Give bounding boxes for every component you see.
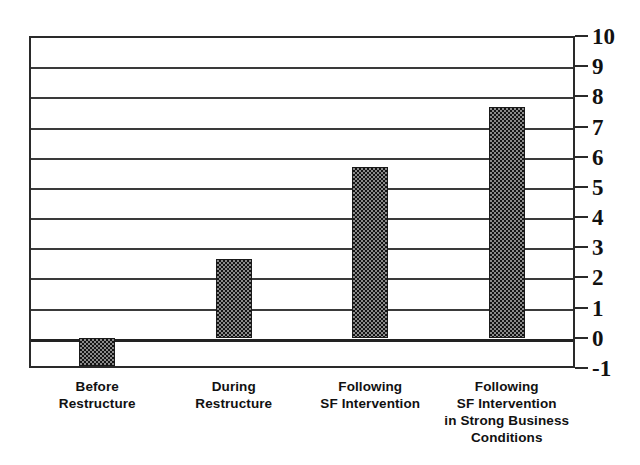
gridline-9: [31, 67, 573, 69]
y-tick-10: [575, 35, 588, 37]
x-axis-label-line: Before: [29, 378, 166, 395]
y-axis-label: 3: [592, 236, 604, 259]
y-axis-label: 5: [592, 175, 604, 198]
x-axis-label-2: FollowingSF Intervention: [302, 378, 439, 412]
y-tick--1: [575, 367, 588, 369]
bar-chart-figure: 109876543210-1BeforeRestructureDuringRes…: [0, 0, 640, 465]
y-tick-6: [575, 156, 588, 158]
y-tick-8: [575, 95, 588, 97]
y-tick-7: [575, 126, 588, 128]
y-tick-0: [575, 337, 588, 339]
y-tick-2: [575, 276, 588, 278]
y-axis-label: 7: [592, 115, 604, 138]
y-axis-label: 6: [592, 145, 604, 168]
x-axis-label-line: Restructure: [29, 395, 166, 412]
chart-title: [0, 0, 640, 3]
y-axis-label: 0: [592, 326, 604, 349]
y-axis-label: 10: [592, 25, 615, 48]
bar-0: [79, 338, 115, 367]
y-axis-label: 2: [592, 266, 604, 289]
y-axis-label: -1: [592, 357, 611, 380]
x-axis-label-3: FollowingSF Interventionin Strong Busine…: [439, 378, 576, 446]
y-tick-1: [575, 307, 588, 309]
bar-2: [352, 167, 388, 338]
y-axis-label: 8: [592, 85, 604, 108]
y-tick-9: [575, 65, 588, 67]
y-tick-5: [575, 186, 588, 188]
x-axis-label-line: Restructure: [166, 395, 303, 412]
x-axis-label-line: Conditions: [439, 429, 576, 446]
x-axis-label-line: Following: [439, 378, 576, 395]
y-tick-3: [575, 246, 588, 248]
y-axis-label: 4: [592, 206, 604, 229]
x-axis-label-line: Following: [302, 378, 439, 395]
x-axis-label-line: SF Intervention: [439, 395, 576, 412]
x-axis-label-1: DuringRestructure: [166, 378, 303, 412]
gridline-8: [31, 97, 573, 99]
y-axis-label: 1: [592, 296, 604, 319]
bar-3: [489, 107, 525, 338]
y-axis-label: 9: [592, 55, 604, 78]
y-tick-4: [575, 216, 588, 218]
x-axis-label-line: During: [166, 378, 303, 395]
bar-1: [216, 259, 252, 337]
x-axis-label-line: in Strong Business: [439, 412, 576, 429]
x-axis-label-0: BeforeRestructure: [29, 378, 166, 412]
x-axis-label-line: SF Intervention: [302, 395, 439, 412]
